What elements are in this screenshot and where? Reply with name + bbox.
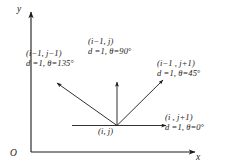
neighbor-distance-up: d =1,	[88, 46, 107, 56]
neighbor-label-up: (i−1, j) d =1, θ=90°	[88, 36, 132, 56]
center-coord-label: (i, j)	[98, 126, 113, 136]
neighbor-coord-upper-right: (i−1 , j+1)	[157, 58, 201, 68]
neighbor-distance-right: d =1,	[165, 122, 184, 132]
neighbor-coord-upper-left: (i−1, j−1)	[26, 48, 74, 58]
neighbor-coord-right: (i , j+1)	[165, 112, 204, 122]
neighbor-theta-upper-right: θ=45	[178, 68, 197, 78]
diagram-drawing	[0, 0, 232, 168]
neighbor-distance-upper-left: d =1,	[26, 58, 45, 68]
degree-symbol-right: °	[201, 122, 205, 132]
degree-symbol-upper-left: °	[70, 58, 74, 68]
neighbor-coord-up: (i−1, j)	[88, 36, 132, 46]
figure-canvas: y x O (i−1, j−1) d =1, θ=135° (i−1, j) d…	[0, 0, 232, 168]
origin-label: O	[10, 148, 17, 158]
degree-symbol-up: °	[128, 46, 132, 56]
neighbor-theta-up: θ=90	[109, 46, 128, 56]
degree-symbol-upper-right: °	[197, 68, 201, 78]
neighbor-theta-upper-left: θ=135	[47, 58, 70, 68]
x-axis-label: x	[196, 152, 200, 162]
neighbor-label-upper-right: (i−1 , j+1) d =1, θ=45°	[157, 58, 201, 78]
neighbor-label-right: (i , j+1) d =1, θ=0°	[165, 112, 204, 132]
y-axis-label: y	[17, 4, 21, 14]
arrow-theta-135	[57, 83, 117, 126]
neighbor-label-upper-left: (i−1, j−1) d =1, θ=135°	[26, 48, 74, 68]
neighbor-distance-upper-right: d =1,	[157, 68, 176, 78]
neighbor-theta-right: θ=0	[186, 122, 200, 132]
arrow-theta-45	[117, 80, 163, 126]
